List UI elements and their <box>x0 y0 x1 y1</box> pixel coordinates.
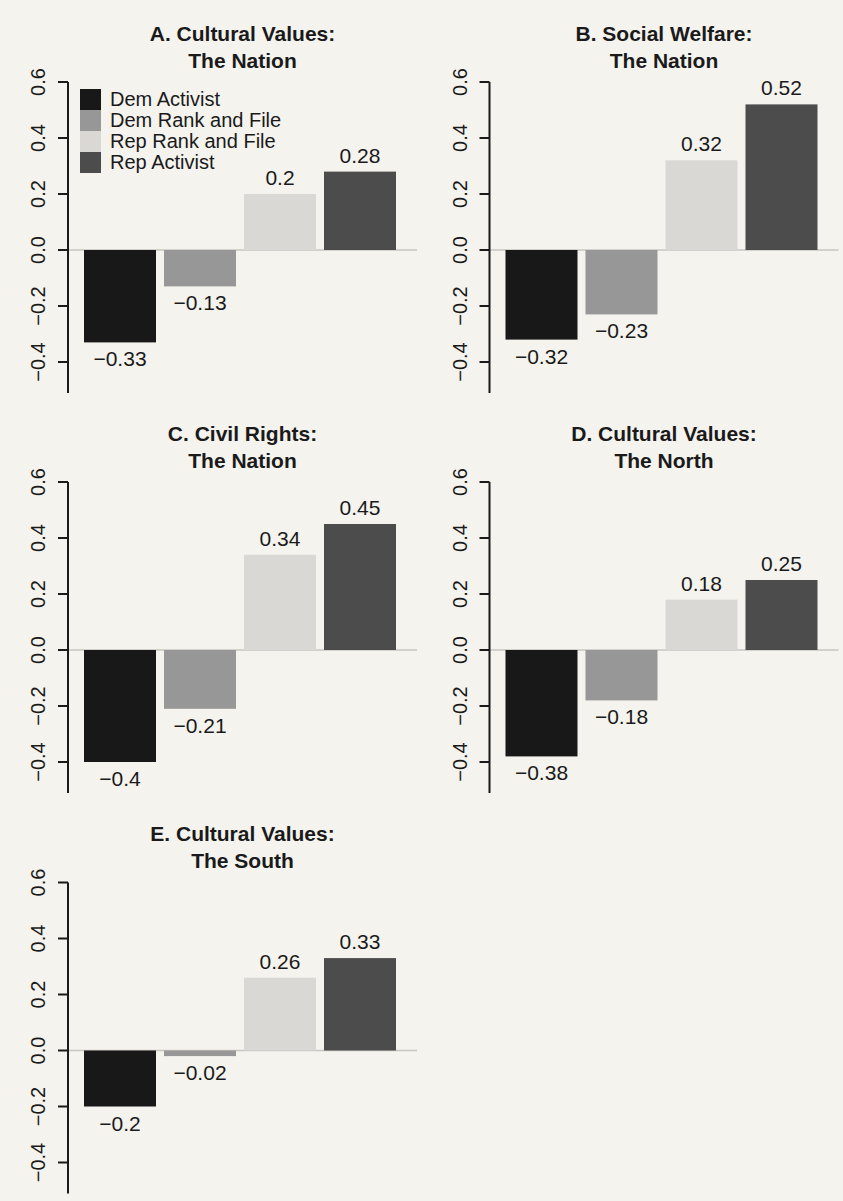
y-tick-label: 0.4 <box>27 925 49 953</box>
value-label-rep-rank-and-file: 0.18 <box>681 572 722 595</box>
bar-rep-rank-and-file <box>666 600 738 650</box>
bar-rep-activist <box>746 104 818 250</box>
value-label-dem-activist: −0.32 <box>515 345 568 368</box>
bar-rep-activist <box>746 580 818 650</box>
chart-a-title-line1: A. Cultural Values: <box>66 20 419 47</box>
chart-e-title: E. Cultural Values: The South <box>66 820 419 874</box>
value-label-rep-activist: 0.28 <box>340 144 381 167</box>
legend-swatch-dem-rank-and-file <box>80 110 101 131</box>
legend-label-rep-activist: Rep Activist <box>110 151 214 174</box>
y-tick-label: 0.0 <box>27 1037 49 1065</box>
value-label-dem-rank-and-file: −0.02 <box>173 1061 226 1084</box>
panel-d-cultural-values-north: −0.38−0.180.180.250.60.40.20.0−0.2−0.4 D… <box>421 400 843 800</box>
value-label-dem-rank-and-file: −0.23 <box>595 319 648 342</box>
y-tick-label: 0.6 <box>449 68 471 96</box>
chart-d-title: D. Cultural Values: The North <box>487 420 841 474</box>
bar-rep-rank-and-file <box>666 160 738 250</box>
legend-item-rep-activist: Rep Activist <box>80 152 281 173</box>
y-tick-label: −0.4 <box>27 1143 49 1182</box>
value-label-dem-activist: −0.38 <box>515 761 568 784</box>
y-tick-label: −0.4 <box>27 342 49 381</box>
bar-dem-activist <box>506 650 578 756</box>
chart-c-title: C. Civil Rights: The Nation <box>66 420 419 474</box>
value-label-dem-rank-and-file: −0.13 <box>173 291 226 314</box>
bar-dem-activist <box>506 250 578 340</box>
value-label-rep-rank-and-file: 0.26 <box>260 950 301 973</box>
panel-e-cultural-values-south: −0.2−0.020.260.330.60.40.20.0−0.2−0.4 E.… <box>0 800 421 1201</box>
value-label-dem-rank-and-file: −0.18 <box>595 705 648 728</box>
legend-swatch-rep-rank-and-file <box>80 131 101 152</box>
legend-item-dem-activist: Dem Activist <box>80 89 281 110</box>
y-tick-label: 0.4 <box>449 124 471 152</box>
chart-e-title-line2: The South <box>66 847 419 874</box>
value-label-rep-activist: 0.52 <box>761 76 802 99</box>
value-label-rep-activist: 0.33 <box>340 930 381 953</box>
chart-b-title-line2: The Nation <box>487 47 841 74</box>
y-tick-label: 0.2 <box>27 180 49 208</box>
panel-grid: −0.33−0.130.20.280.60.40.20.0−0.2−0.4 A.… <box>0 0 843 1201</box>
bar-dem-rank-and-file <box>586 250 658 314</box>
value-label-rep-rank-and-file: 0.32 <box>681 132 722 155</box>
y-tick-label: 0.4 <box>27 124 49 152</box>
legend-swatch-dem-activist <box>80 89 101 110</box>
y-tick-label: 0.2 <box>27 981 49 1009</box>
legend-item-rep-rank-and-file: Rep Rank and File <box>80 131 281 152</box>
y-tick-label: −0.2 <box>449 686 471 725</box>
chart-a-title: A. Cultural Values: The Nation <box>66 20 419 74</box>
y-tick-label: 0.0 <box>449 236 471 264</box>
bar-dem-activist <box>84 250 156 342</box>
y-tick-label: −0.2 <box>27 686 49 725</box>
y-tick-label: 0.0 <box>27 236 49 264</box>
y-tick-label: −0.2 <box>449 286 471 325</box>
value-label-dem-activist: −0.2 <box>99 1112 140 1135</box>
value-label-dem-rank-and-file: −0.21 <box>173 714 226 737</box>
bar-dem-activist <box>84 1051 156 1107</box>
y-tick-label: 0.6 <box>449 468 471 496</box>
bar-dem-rank-and-file <box>164 250 236 286</box>
legend-swatch-rep-activist <box>80 152 101 173</box>
y-tick-label: 0.2 <box>449 580 471 608</box>
y-tick-label: 0.4 <box>449 524 471 552</box>
legend-label-dem-rank-and-file: Dem Rank and File <box>110 109 281 132</box>
bar-dem-rank-and-file <box>164 650 236 709</box>
bar-dem-rank-and-file <box>586 650 658 700</box>
bar-rep-activist <box>324 172 396 250</box>
chart-a-title-line2: The Nation <box>66 47 419 74</box>
chart-d-title-line1: D. Cultural Values: <box>487 420 841 447</box>
y-tick-label: 0.0 <box>27 636 49 664</box>
bar-rep-activist <box>324 524 396 650</box>
y-tick-label: 0.4 <box>27 524 49 552</box>
chart-c-title-line2: The Nation <box>66 447 419 474</box>
y-tick-label: 0.2 <box>27 580 49 608</box>
legend: Dem Activist Dem Rank and File Rep Rank … <box>80 89 281 173</box>
y-tick-label: −0.4 <box>449 742 471 781</box>
value-label-dem-activist: −0.4 <box>99 767 141 790</box>
panel-c-civil-rights-nation: −0.4−0.210.340.450.60.40.20.0−0.2−0.4 C.… <box>0 400 421 800</box>
value-label-dem-activist: −0.33 <box>93 347 146 370</box>
legend-item-dem-rank-and-file: Dem Rank and File <box>80 110 281 131</box>
y-tick-label: −0.2 <box>27 1087 49 1126</box>
value-label-rep-activist: 0.25 <box>761 552 802 575</box>
chart-d-title-line2: The North <box>487 447 841 474</box>
bar-rep-rank-and-file <box>244 555 316 650</box>
bar-dem-activist <box>84 650 156 762</box>
panel-b-social-welfare-nation: −0.32−0.230.320.520.60.40.20.0−0.2−0.4 B… <box>421 0 843 400</box>
y-tick-label: 0.6 <box>27 869 49 897</box>
y-tick-label: 0.2 <box>449 180 471 208</box>
bar-rep-activist <box>324 958 396 1050</box>
chart-b-title: B. Social Welfare: The Nation <box>487 20 841 74</box>
value-label-rep-activist: 0.45 <box>340 496 381 519</box>
y-tick-label: 0.6 <box>27 468 49 496</box>
y-tick-label: −0.4 <box>27 742 49 781</box>
figure-page: −0.33−0.130.20.280.60.40.20.0−0.2−0.4 A.… <box>0 0 843 1201</box>
value-label-rep-rank-and-file: 0.34 <box>260 527 301 550</box>
bar-rep-rank-and-file <box>244 194 316 250</box>
chart-c-title-line1: C. Civil Rights: <box>66 420 419 447</box>
legend-label-rep-rank-and-file: Rep Rank and File <box>110 130 276 153</box>
y-tick-label: 0.0 <box>449 636 471 664</box>
chart-b-title-line1: B. Social Welfare: <box>487 20 841 47</box>
panel-empty <box>421 800 843 1201</box>
y-tick-label: 0.6 <box>27 68 49 96</box>
y-tick-label: −0.2 <box>27 286 49 325</box>
chart-e-title-line1: E. Cultural Values: <box>66 820 419 847</box>
